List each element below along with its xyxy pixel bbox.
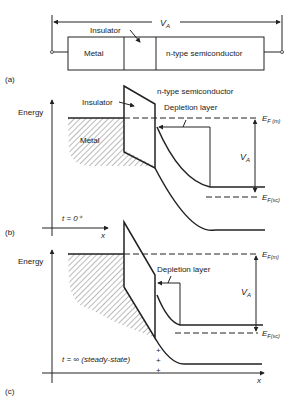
depletion-label: Depletion layer xyxy=(157,265,211,274)
panel-a-label: (a) xyxy=(5,75,15,84)
panel-b-label: (b) xyxy=(5,228,15,237)
mis-band-diagram: VA Insulator Metal n-type semiconductor … xyxy=(0,0,304,408)
metal-label: Metal xyxy=(80,136,100,145)
ef-sc-label: EF(sc) xyxy=(262,193,280,203)
insulator-pointer xyxy=(130,30,140,42)
positive-charge: + xyxy=(156,346,161,355)
x-axis-label: x xyxy=(256,376,262,385)
energy-label: Energy xyxy=(18,257,43,266)
metal-label: Metal xyxy=(84,49,104,58)
va-label: VA xyxy=(240,152,250,163)
insulator-label: Insulator xyxy=(90,26,121,35)
va-label: VA xyxy=(160,18,170,29)
panel-c: Energy x t = ∞ (steady-state) (c) EF(m) … xyxy=(5,222,280,396)
ef-m-label: EF(m) xyxy=(262,250,279,260)
panel-b: Energy x t = 0⁺ (b) Metal Insulator EF (… xyxy=(5,86,281,240)
semiconductor-label: n-type semiconductor xyxy=(166,49,243,58)
depletion-label: Depletion layer xyxy=(164,103,218,112)
insulator-pointer xyxy=(119,102,134,106)
depletion-pointer xyxy=(183,120,186,127)
positive-charge: + xyxy=(156,356,161,365)
x-axis-label: x xyxy=(100,231,106,240)
positive-charge: + xyxy=(156,366,161,375)
valence-band xyxy=(155,168,215,230)
energy-label: Energy xyxy=(18,108,43,117)
left-terminal xyxy=(51,51,54,54)
time-label: t = ∞ (steady-state) xyxy=(62,355,131,364)
conduction-band xyxy=(157,295,263,325)
ef-m-label: EF (m) xyxy=(262,114,281,124)
panel-c-label: (c) xyxy=(5,387,15,396)
metal-region xyxy=(68,254,155,338)
depletion-pointer xyxy=(168,276,171,283)
panel-a: VA Insulator Metal n-type semiconductor … xyxy=(5,15,284,84)
valence-band xyxy=(155,338,262,364)
ef-sc-label: EF(sc) xyxy=(262,329,280,339)
time-label: t = 0⁺ xyxy=(62,214,83,223)
va-label: VA xyxy=(241,287,251,298)
insulator-label: Insulator xyxy=(82,98,113,107)
semiconductor-label: n-type semiconductor xyxy=(157,87,234,96)
right-terminal xyxy=(281,51,284,54)
